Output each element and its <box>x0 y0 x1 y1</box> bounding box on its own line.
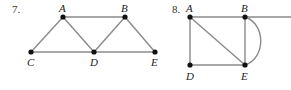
label-B: B <box>121 2 128 14</box>
label-D: D <box>89 56 98 68</box>
edge-B-D <box>94 17 125 52</box>
vertex-D <box>91 49 96 54</box>
label-D: D <box>185 70 194 82</box>
label-A: A <box>185 2 193 14</box>
vertex-E <box>152 49 157 54</box>
label-B: B <box>241 2 248 14</box>
label-E: E <box>240 70 248 82</box>
label-C: C <box>27 56 35 68</box>
vertex-B <box>122 14 127 19</box>
edge-A-C <box>31 17 63 52</box>
label-A: A <box>58 2 66 14</box>
edge-B-E <box>125 17 155 52</box>
graph-8: 8. A B D E <box>172 2 291 82</box>
edge-A-E <box>190 17 245 65</box>
vertex-C <box>28 49 33 54</box>
edge-B-E-curved <box>245 17 261 65</box>
graph-figures: 7. A B C D E 8. A B D E <box>0 0 291 90</box>
label-E: E <box>150 56 158 68</box>
vertex-A <box>60 14 65 19</box>
figure-number-7: 7. <box>12 3 21 15</box>
figure-number-8: 8. <box>172 3 181 15</box>
vertex-E <box>242 62 247 67</box>
graph-7: 7. A B C D E <box>12 2 158 68</box>
vertex-B <box>242 14 247 19</box>
edge-A-D <box>63 17 94 52</box>
vertex-D <box>187 62 192 67</box>
vertex-A <box>187 14 192 19</box>
